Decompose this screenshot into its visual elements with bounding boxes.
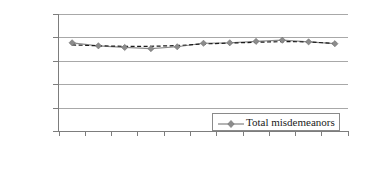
data-point-marker xyxy=(305,39,311,45)
data-point-marker xyxy=(227,40,233,46)
series-total-misdemeanors-markers xyxy=(69,37,338,52)
data-point-marker xyxy=(253,38,259,44)
legend-label: Total misdemeanors xyxy=(246,116,335,128)
series-layer xyxy=(0,0,366,176)
data-point-marker xyxy=(200,40,206,46)
data-point-marker xyxy=(279,37,285,43)
line-chart: 500000 400000 300000 200000 100000 0 200… xyxy=(0,0,366,176)
legend-marker-icon xyxy=(218,116,244,128)
data-point-marker xyxy=(122,44,128,50)
data-point-marker xyxy=(174,44,180,50)
data-point-marker xyxy=(332,41,338,47)
data-point-marker xyxy=(95,43,101,49)
legend: Total misdemeanors xyxy=(212,113,340,131)
